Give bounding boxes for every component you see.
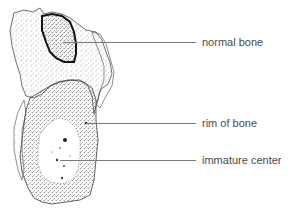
- label-normal-bone: normal bone: [202, 36, 263, 48]
- label-immature-center: immature center: [202, 154, 281, 166]
- normal-bone-leader-line: [63, 42, 196, 43]
- immature-center-leader-line: [60, 160, 196, 161]
- label-rim-of-bone: rim of bone: [202, 117, 257, 129]
- bone-specimen-illustration: [0, 0, 296, 215]
- rim-of-bone-leader-line: [86, 123, 196, 124]
